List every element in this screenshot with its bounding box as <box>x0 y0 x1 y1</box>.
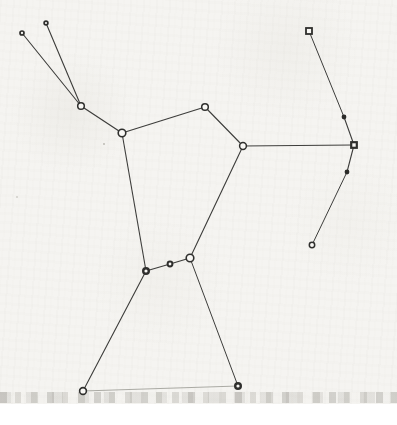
edge-bow-top-bow-upper <box>309 31 344 117</box>
scanned-page <box>0 0 397 425</box>
edge-right-shoulder-belt-right <box>190 146 243 258</box>
edge-left-shoulder-head <box>122 107 205 133</box>
star-club-tip-left <box>20 31 24 35</box>
edges-layer <box>22 23 354 391</box>
star-bow-upper <box>342 115 347 120</box>
star-bow-bottom <box>309 242 314 247</box>
edge-left-foot-right-foot <box>83 386 238 391</box>
star-club-elbow <box>78 103 85 110</box>
star-left-foot <box>80 388 87 395</box>
stars-layer <box>20 21 357 394</box>
edge-club-elbow-left-shoulder <box>81 106 122 133</box>
star-left-shoulder <box>118 129 126 137</box>
star-belt-left <box>143 268 149 274</box>
paper-specks-layer <box>16 143 105 198</box>
edge-belt-right-right-foot <box>190 258 238 386</box>
edge-belt-left-left-foot <box>83 271 146 391</box>
edge-head-right-shoulder <box>205 107 243 146</box>
edge-bow-middle-bow-lower <box>347 145 354 172</box>
star-belt-right <box>186 254 194 262</box>
star-bow-top <box>306 28 312 34</box>
paper-speck-0 <box>103 143 105 145</box>
star-club-tip-right <box>44 21 48 25</box>
paper-speck-1 <box>16 196 18 198</box>
star-right-foot <box>235 383 241 389</box>
edge-club-tip-right-club-elbow <box>46 23 81 106</box>
star-belt-center <box>168 262 173 267</box>
star-bow-lower <box>345 170 350 175</box>
edge-bow-lower-bow-bottom <box>312 172 347 245</box>
star-bow-middle <box>351 142 357 148</box>
edge-club-tip-left-club-elbow <box>22 33 81 106</box>
edge-bow-upper-bow-middle <box>344 117 354 145</box>
star-head <box>202 104 209 111</box>
constellation-diagram-svg <box>0 0 397 425</box>
star-right-shoulder <box>240 143 247 150</box>
edge-left-shoulder-belt-left <box>122 133 146 271</box>
edge-right-shoulder-bow-middle <box>243 145 354 146</box>
